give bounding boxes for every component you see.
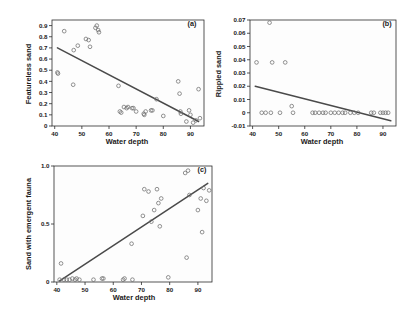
x-tick-label: 40 bbox=[53, 286, 60, 293]
panel-c-ylabel: Sand with emergent fauna bbox=[24, 177, 33, 270]
panel-a-plot-area: 00.10.20.30.40.50.60.70.80.9405060708090 bbox=[39, 20, 204, 137]
y-tick-label: 0.5 bbox=[41, 220, 50, 227]
x-tick-label: 70 bbox=[327, 130, 334, 137]
y-tick-label: 1.0 bbox=[41, 162, 50, 169]
y-tick-label: 0 bbox=[46, 278, 50, 285]
y-tick-label: 0.01 bbox=[233, 96, 246, 103]
y-tick-label: 0.9 bbox=[39, 22, 48, 29]
x-tick-label: 80 bbox=[166, 286, 173, 293]
panel-b-plot-area: -0.0100.010.020.030.040.050.060.07405060… bbox=[231, 16, 396, 137]
y-tick-label: 0.02 bbox=[233, 82, 246, 89]
panel-b-ylabel: Rippled sand bbox=[214, 50, 223, 97]
panel-b-svg: -0.0100.010.020.030.040.050.060.07405060… bbox=[212, 8, 407, 148]
panel-a-ylabel: Featureless sand bbox=[24, 43, 33, 104]
x-tick-label: 50 bbox=[78, 130, 85, 137]
y-tick-label: 0.1 bbox=[39, 111, 48, 118]
y-tick-label: 0.05 bbox=[233, 43, 246, 50]
y-tick-label: 0.04 bbox=[233, 56, 246, 63]
y-tick-label: 0.06 bbox=[233, 29, 246, 36]
y-tick-label: 0 bbox=[44, 122, 48, 129]
panel-c-plot-area: 00.51.0405060708090 bbox=[41, 162, 212, 293]
x-tick-label: 60 bbox=[106, 130, 113, 137]
y-tick-label: 0 bbox=[242, 109, 246, 116]
figure-panel-grid: 00.10.20.30.40.50.60.70.80.9405060708090… bbox=[0, 0, 414, 311]
x-tick-label: 70 bbox=[138, 286, 145, 293]
y-tick-label: 0.07 bbox=[233, 16, 246, 23]
panel-b-rippled-sand: -0.0100.010.020.030.040.050.060.07405060… bbox=[212, 8, 407, 148]
panel-a-xlabel: Water depth bbox=[106, 137, 149, 146]
x-tick-label: 40 bbox=[51, 130, 58, 137]
x-tick-label: 60 bbox=[110, 286, 117, 293]
x-tick-label: 90 bbox=[194, 286, 201, 293]
panel-b-tag: (b) bbox=[382, 19, 392, 28]
x-tick-label: 90 bbox=[187, 130, 194, 137]
x-tick-label: 80 bbox=[353, 130, 360, 137]
panel-a-featureless-sand: 00.10.20.30.40.50.60.70.80.9405060708090… bbox=[22, 8, 212, 148]
plot-frame bbox=[250, 20, 396, 126]
x-tick-label: 80 bbox=[160, 130, 167, 137]
panel-c-tag: (c) bbox=[198, 165, 207, 174]
panel-c-xlabel: Water depth bbox=[113, 293, 156, 302]
panel-b-xlabel: Water depth bbox=[301, 137, 344, 146]
x-tick-label: 40 bbox=[249, 130, 256, 137]
panel-c-svg: 00.51.0405060708090 Sand with emergent f… bbox=[22, 152, 222, 304]
y-tick-label: 0.8 bbox=[39, 33, 48, 40]
x-tick-label: 90 bbox=[380, 130, 387, 137]
x-tick-label: 50 bbox=[275, 130, 282, 137]
panel-a-tag: (a) bbox=[188, 19, 197, 28]
y-tick-label: 0.5 bbox=[39, 66, 48, 73]
plot-frame bbox=[54, 166, 212, 282]
y-tick-label: -0.01 bbox=[231, 122, 246, 129]
panel-a-svg: 00.10.20.30.40.50.60.70.80.9405060708090… bbox=[22, 8, 212, 148]
y-tick-label: 0.03 bbox=[233, 69, 246, 76]
y-tick-label: 0.3 bbox=[39, 89, 48, 96]
y-tick-label: 0.4 bbox=[39, 78, 48, 85]
x-tick-label: 50 bbox=[82, 286, 89, 293]
y-tick-label: 0.7 bbox=[39, 44, 48, 51]
x-tick-label: 60 bbox=[301, 130, 308, 137]
x-tick-label: 70 bbox=[133, 130, 140, 137]
y-tick-label: 0.6 bbox=[39, 55, 48, 62]
panel-c-sand-emergent-fauna: 00.51.0405060708090 Sand with emergent f… bbox=[22, 152, 222, 304]
y-tick-label: 0.2 bbox=[39, 100, 48, 107]
